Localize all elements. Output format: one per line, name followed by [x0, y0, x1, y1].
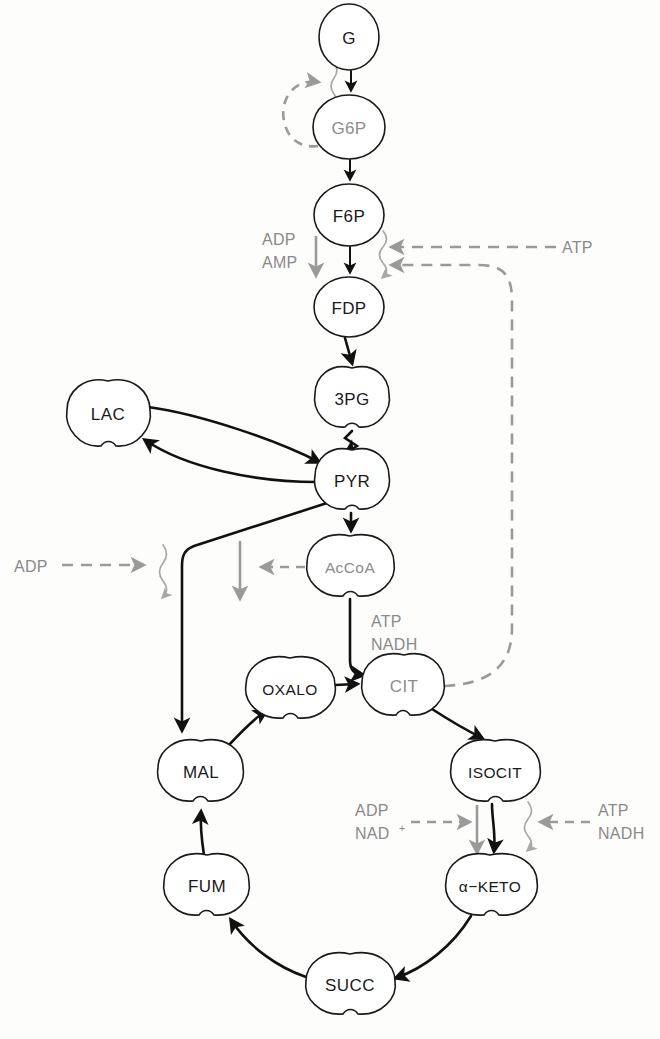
edge-fum-to-mal	[201, 812, 204, 855]
node-isocit-label: ISOCIT	[468, 764, 522, 781]
node-succ[interactable]: SUCC	[306, 953, 396, 1014]
node-cit-label: CIT	[390, 677, 419, 696]
pathway-diagram: G G6P F6P FDP 3PG PYR LAC AcCoA OXALO CI…	[0, 0, 660, 1039]
node-3pg[interactable]: 3PG	[315, 367, 390, 427]
node-fdp[interactable]: FDP	[314, 277, 384, 337]
node-aketo-label: α−KETO	[459, 878, 521, 895]
g6p-recycle-regulator	[283, 82, 318, 147]
node-aketo[interactable]: α−KETO	[446, 854, 538, 915]
node-pyr-label: PYR	[334, 472, 370, 491]
edge-fdp-to-3pg	[345, 338, 352, 363]
node-oxalo-label: OXALO	[262, 681, 317, 698]
adp-label-isocit: ADP	[355, 802, 389, 819]
node-succ-label: SUCC	[325, 976, 375, 995]
node-lac[interactable]: LAC	[67, 380, 151, 446]
node-oxalo[interactable]: OXALO	[246, 657, 336, 718]
f6p-inhibit-squiggle	[380, 231, 387, 277]
edge-mal-to-oxalo	[228, 711, 266, 746]
node-fum[interactable]: FUM	[164, 854, 250, 915]
nad-label-isocit: NAD	[355, 825, 390, 842]
node-accoa-label: AcCoA	[325, 559, 376, 576]
nadh-label-cit: NADH	[371, 636, 418, 653]
node-g6p[interactable]: G6P	[313, 95, 385, 159]
node-3pg-label: 3PG	[334, 390, 369, 409]
node-mal-label: MAL	[183, 763, 219, 782]
node-pyr[interactable]: PYR	[315, 449, 390, 509]
node-g[interactable]: G	[319, 4, 379, 70]
edge-isocit-to-aketo	[492, 804, 495, 851]
atp-label-f6p: ATP	[562, 239, 593, 256]
cit-feedback-inhibitor-line	[392, 265, 512, 686]
node-f6p-label: F6P	[333, 207, 365, 226]
nad-plus-superscript: +	[399, 822, 405, 834]
adp-label-pyr: ADP	[14, 558, 48, 575]
amp-label-f6p: AMP	[262, 254, 298, 271]
pyr-branch-squiggle	[160, 545, 167, 597]
node-g-label: G	[342, 29, 356, 48]
accoa-inhibitor-line	[240, 541, 305, 598]
node-fdp-label: FDP	[331, 299, 366, 318]
node-f6p[interactable]: F6P	[314, 184, 384, 246]
node-mal[interactable]: MAL	[158, 740, 244, 801]
edge-cit-to-isocit	[432, 709, 482, 738]
nadh-label-isocit: NADH	[598, 825, 645, 842]
node-isocit[interactable]: ISOCIT	[451, 740, 541, 801]
atp-label-isocit: ATP	[598, 802, 629, 819]
node-accoa[interactable]: AcCoA	[307, 535, 395, 596]
atp-nadh-inhibitor-line	[525, 802, 591, 850]
edge-lac-to-pyr	[148, 407, 319, 462]
edge-oxalo-to-cit	[335, 684, 357, 685]
edge-aketo-to-succ	[396, 916, 471, 978]
adp-label-f6p: ADP	[262, 231, 296, 248]
node-fum-label: FUM	[188, 877, 226, 896]
pathway-canvas: G G6P F6P FDP 3PG PYR LAC AcCoA OXALO CI…	[0, 0, 660, 1039]
edge-accoa-to-cit	[350, 599, 363, 675]
adp-nad-activator-line	[411, 805, 477, 852]
node-cit[interactable]: CIT	[362, 654, 445, 715]
edge-pyr-to-lac	[145, 440, 317, 482]
node-g6p-label: G6P	[331, 119, 366, 138]
node-lac-label: LAC	[91, 405, 125, 424]
edge-succ-to-fum	[231, 920, 306, 977]
atp-label-cit: ATP	[371, 613, 402, 630]
